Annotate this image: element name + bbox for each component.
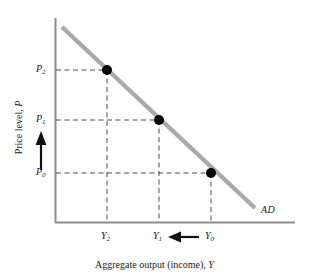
data-point-y0-p0 — [206, 168, 216, 178]
y-axis-title: Price level, P — [13, 80, 24, 176]
ad-curve-figure: P2 P1 P0 Y2 Y1 Y0 AD Price level, P Aggr… — [0, 0, 309, 278]
x-axis-title: Aggregate output (income), Y — [0, 259, 309, 270]
y-tick-label-p0: P0 — [36, 167, 46, 177]
x-tick-label-y1: Y1 — [153, 231, 162, 241]
ad-curve-label: AD — [261, 204, 275, 215]
y-tick-label-p2: P2 — [36, 64, 46, 74]
data-point-y2-p2 — [102, 65, 112, 75]
price-level-up-arrow-icon — [36, 131, 47, 170]
data-point-y1-p1 — [154, 115, 164, 125]
y-tick-label-p1: P1 — [36, 114, 46, 124]
x-tick-label-y0: Y0 — [205, 231, 214, 241]
output-left-arrow-icon — [168, 232, 199, 243]
x-tick-label-y2: Y2 — [101, 231, 110, 241]
